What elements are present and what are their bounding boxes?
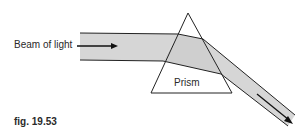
- beam-label: Beam of light: [14, 39, 72, 50]
- incoming-beam: [80, 33, 178, 61]
- prism-label: Prism: [174, 77, 200, 88]
- figure-caption: fig. 19.53: [14, 116, 57, 127]
